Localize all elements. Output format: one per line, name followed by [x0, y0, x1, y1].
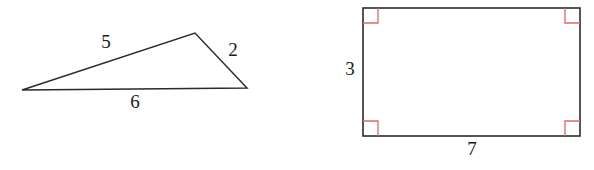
- rectangle-side-label-7: 7: [467, 138, 477, 159]
- triangle-side-label-2: 2: [228, 39, 238, 60]
- rectangle-outline: [363, 8, 580, 136]
- triangle-side-label-6: 6: [130, 91, 140, 112]
- geometry-figure-canvas: 5 2 6 3 7: [0, 0, 594, 170]
- triangle-outline: [22, 33, 247, 90]
- triangle-figure: 5 2 6: [22, 31, 247, 112]
- right-angle-marker-bottom-right-icon: [565, 121, 580, 136]
- right-angle-marker-top-left-icon: [363, 8, 378, 23]
- right-angle-marker-top-right-icon: [565, 8, 580, 23]
- rectangle-figure: 3 7: [345, 8, 580, 159]
- rectangle-side-label-3: 3: [345, 58, 355, 79]
- right-angle-marker-bottom-left-icon: [363, 121, 378, 136]
- triangle-side-label-5: 5: [101, 31, 111, 52]
